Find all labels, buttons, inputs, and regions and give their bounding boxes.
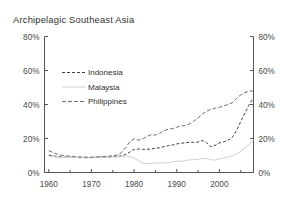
x-tick-label: 2000 — [210, 180, 229, 189]
series-line-malaysia — [49, 140, 254, 163]
y-tick-label-right: 20% — [259, 135, 275, 144]
y-tick-label-right: 0% — [259, 169, 271, 178]
series-line-philippines — [49, 91, 254, 157]
y-tick-label-left: 80% — [23, 33, 39, 42]
series-line-indonesia — [49, 98, 254, 158]
x-tick-label: 1980 — [125, 180, 144, 189]
x-tick-label: 1990 — [168, 180, 187, 189]
y-tick-label-right: 60% — [259, 67, 275, 76]
chart-figure: Archipelagic Southeast Asia 0%0%20%20%40… — [0, 0, 298, 207]
legend-label-indonesia: Indonesia — [88, 68, 123, 77]
y-tick-label-left: 0% — [28, 169, 40, 178]
legend-label-philippines: Philippines — [88, 97, 127, 106]
y-tick-label-right: 80% — [259, 33, 275, 42]
y-tick-label-left: 60% — [23, 67, 39, 76]
y-tick-label-right: 40% — [259, 101, 275, 110]
y-tick-label-left: 40% — [23, 101, 39, 110]
legend-label-malaysia: Malaysia — [88, 83, 120, 92]
y-tick-label-left: 20% — [23, 135, 39, 144]
x-tick-label: 1960 — [40, 180, 59, 189]
chart-plot: 0%0%20%20%40%40%60%60%80%80%196019701980… — [0, 0, 298, 207]
x-tick-label: 1970 — [82, 180, 101, 189]
